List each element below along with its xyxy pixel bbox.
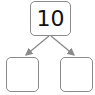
whole-box: 10 bbox=[30, 1, 71, 36]
part-box-left[interactable] bbox=[6, 57, 39, 92]
arrow-left bbox=[26, 36, 49, 55]
whole-value: 10 bbox=[37, 6, 65, 31]
part-box-right[interactable] bbox=[60, 57, 93, 92]
arrow-right bbox=[51, 36, 74, 55]
